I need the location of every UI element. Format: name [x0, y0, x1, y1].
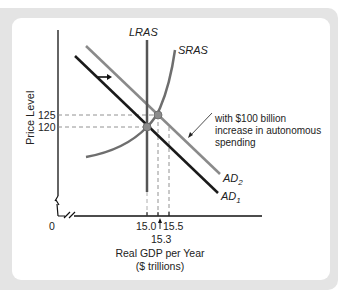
equilibrium-point-2: [154, 111, 162, 119]
annotation-pointer: [190, 113, 212, 136]
y-tick-120: 120: [38, 121, 56, 133]
sras-label: SRAS: [178, 44, 209, 56]
lras-label: LRAS: [129, 26, 158, 38]
ad2-label: AD2: [222, 172, 243, 187]
ad1-label: AD1: [220, 190, 241, 205]
y-tick-125: 125: [38, 109, 56, 121]
x-axis-label: Real GDP per Year: [115, 247, 205, 259]
x-tick-0: 0: [49, 220, 55, 232]
y-axis-break-icon: [55, 196, 59, 216]
sras-curve: [86, 50, 175, 157]
x-tick-15-0: 15.0: [136, 220, 157, 232]
annotation-line-2: increase in autonomous: [215, 125, 321, 136]
arrow-head-icon: [107, 74, 112, 80]
ad-as-chart: LRAS SRAS AD2 AD1 Price Level 125 120 0 …: [0, 0, 347, 291]
annotation-line-1: with $100 billion: [214, 113, 286, 124]
equilibrium-point-1: [143, 123, 151, 131]
x-tick-15-3: 15.3: [151, 233, 172, 245]
ad2-curve: [86, 46, 220, 174]
x-tick-15-5: 15.5: [163, 220, 184, 232]
annotation-line-3: spending: [215, 137, 256, 148]
annotation-arrow-icon: [188, 132, 193, 138]
x-axis-break-icon: [58, 212, 75, 218]
y-axis-label: Price Level: [24, 91, 36, 145]
x-axis-unit: ($ trillions): [136, 260, 184, 272]
up-arrow-icon: [158, 218, 162, 223]
